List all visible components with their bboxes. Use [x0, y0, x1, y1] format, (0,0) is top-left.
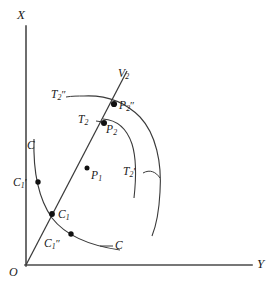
- label-P1: P1: [91, 170, 102, 183]
- label-P2-base: P: [106, 123, 113, 135]
- label-P2dp-prime: ″: [130, 99, 134, 111]
- label-V2-sub: 2: [125, 72, 129, 81]
- curve-C: [34, 139, 120, 250]
- label-T2-sub: 2: [84, 118, 88, 127]
- label-T2: T2: [78, 114, 88, 127]
- label-T2p-prime: ′: [133, 165, 135, 177]
- label-C1dp-prime: ″: [56, 237, 60, 249]
- point-P2-double-prime: [111, 101, 117, 107]
- point-C1-prime: [35, 179, 40, 184]
- figure-canvas: [0, 0, 276, 290]
- label-C1p-base: C: [13, 176, 21, 188]
- axis-label-x: X: [17, 8, 25, 21]
- ray-line-OV2: [26, 71, 127, 265]
- label-C1-sub: 1: [66, 213, 70, 222]
- geometry-figure: X Y O V2 T2″ P2″ T2 P2 T2′ P1 C C C1′ C1…: [0, 0, 276, 290]
- label-P2-sub: 2: [113, 128, 117, 137]
- label-T2-prime: T2′: [123, 166, 136, 179]
- label-T2dp-prime: ″: [61, 88, 65, 100]
- label-C1-prime: C1′: [13, 177, 27, 190]
- axis-label-y: Y: [257, 257, 264, 270]
- label-P2dp-base: P: [119, 99, 126, 111]
- label-C-upper: C: [27, 140, 35, 152]
- leader-t2-prime: [143, 171, 160, 178]
- label-P2: P2: [106, 124, 117, 137]
- axis-label-origin: O: [9, 266, 18, 278]
- label-C1p-prime: ′: [25, 176, 27, 188]
- label-P2-double-prime: P2″: [119, 100, 134, 113]
- label-C-lower: C: [115, 240, 123, 252]
- label-P1-sub: 1: [98, 174, 102, 183]
- label-C1: C1: [58, 209, 70, 222]
- label-C1-double-prime: C1″: [44, 238, 60, 251]
- label-V2-base: V: [118, 67, 125, 79]
- point-C1-double-prime: [68, 231, 73, 236]
- label-C1-base: C: [58, 208, 66, 220]
- point-C1: [49, 211, 55, 217]
- point-P1: [85, 166, 90, 171]
- label-V2: V2: [118, 68, 129, 81]
- label-P1-base: P: [91, 169, 98, 181]
- label-C1dp-base: C: [44, 237, 52, 249]
- leader-t2-double-prime: [66, 96, 84, 97]
- label-T2-double-prime: T2″: [51, 89, 66, 102]
